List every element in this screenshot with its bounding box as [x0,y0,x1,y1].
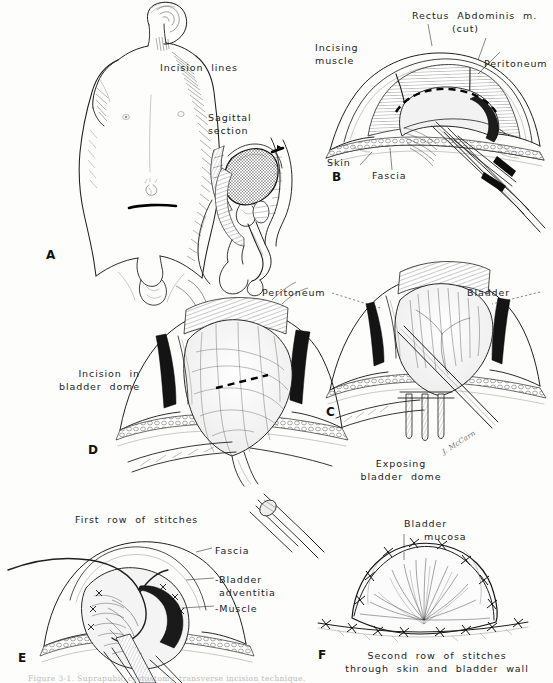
label-rectus-abdominis: Rectus Abdominis m. [412,10,537,23]
label-exposing-bladder-dome: Exposing bladder dome [336,458,466,483]
label-bladder-mucosa-line1: Bladder [404,518,447,531]
panel-letter-d: D [88,443,98,457]
label-muscle: -Muscle [215,603,258,616]
label-sagittal-section: Sagittal section [208,112,252,137]
label-skin: Skin [327,157,351,170]
panel-letter-f: F [318,648,326,662]
label-incision-bladder-dome: Incision in bladder dome [16,368,140,393]
surgical-plate: Incision lines Sagittal section A Rectus… [0,0,553,683]
panel-letter-b: B [332,170,341,184]
label-fascia-b: Fascia [372,170,406,183]
label-incising-muscle: Incising muscle [315,42,359,67]
plate-artwork [0,0,553,683]
label-peritoneum-c: Peritoneum [262,287,325,300]
label-peritoneum-b: Peritoneum [484,58,547,71]
label-fascia-e: Fascia [215,545,249,558]
panel-letter-e: E [18,651,26,665]
label-second-row-stitches: Second row of stitches through skin and … [332,650,542,675]
label-bladder-adventitia: -Bladder adventitia [215,574,276,599]
label-first-row-stitches: First row of stitches [75,514,198,527]
panel-letter-c: C [326,405,335,419]
label-incision-lines: Incision lines [160,62,238,75]
label-bladder-mucosa-line2: mucosa [424,531,466,544]
label-bladder-c: Bladder [467,287,510,300]
label-rectus-cut: (cut) [452,23,479,36]
panel-letter-a: A [46,248,55,262]
figure-caption: Figure 3-1. Suprapubic cystostomy, trans… [28,674,448,683]
